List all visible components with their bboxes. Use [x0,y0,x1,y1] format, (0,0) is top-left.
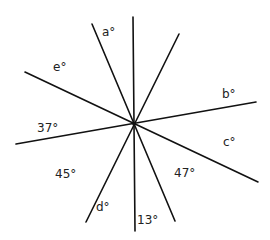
angle-label-e: e° [53,60,66,74]
angle-label-47: 47° [174,166,195,180]
angle-label-c: c° [223,135,236,149]
intersection-point [132,122,136,126]
angle-label-b: b° [222,87,236,101]
angle-label-37: 37° [37,121,58,135]
line-steep-right [86,34,179,222]
angle-label-a: a° [102,25,115,39]
angle-diagram: a° e° b° 37° c° 45° 47° d° 13° [0,0,270,240]
angle-label-d: d° [96,200,110,214]
labels-group: a° e° b° 37° c° 45° 47° d° 13° [37,25,236,227]
angle-label-45: 45° [55,167,76,181]
angle-label-13: 13° [137,213,158,227]
